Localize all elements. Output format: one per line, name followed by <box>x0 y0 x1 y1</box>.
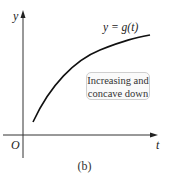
origin-label: O <box>11 139 20 151</box>
x-axis-arrow-icon <box>150 133 158 138</box>
y-axis-label: y <box>13 10 18 22</box>
x-axis-label: t <box>156 139 159 151</box>
y-axis-arrow-icon <box>21 10 26 18</box>
figure-caption: (b) <box>0 159 169 174</box>
annotation-line-1: Increasing and <box>87 74 149 87</box>
annotation-line-2: concave down <box>87 87 149 100</box>
annotation-box: Increasing and concave down <box>86 72 150 100</box>
curve-label: y = g(t) <box>103 22 138 34</box>
